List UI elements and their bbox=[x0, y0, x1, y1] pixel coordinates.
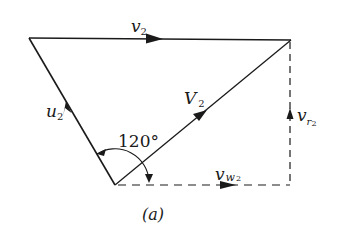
figure-caption: (a) bbox=[142, 205, 164, 224]
v2-arrow-icon bbox=[146, 34, 163, 44]
vector-vr2 bbox=[287, 42, 294, 185]
arc-start-arrow-icon bbox=[97, 149, 106, 156]
vr2-arrow-icon bbox=[287, 108, 294, 119]
vw2-label: vw2 bbox=[215, 164, 241, 184]
angle-label: 120° bbox=[118, 131, 159, 151]
vector-u2 bbox=[29, 38, 115, 185]
vector-vw2 bbox=[118, 181, 290, 189]
angle-arc bbox=[97, 149, 153, 183]
vector-v2 bbox=[29, 34, 291, 44]
velocity-triangle-diagram: v2 u2 V2 vr2 vw2 120° (a) bbox=[0, 0, 341, 244]
vr2-label: vr2 bbox=[297, 105, 316, 128]
u2-label: u2 bbox=[46, 101, 63, 122]
arc-end-arrow-icon bbox=[145, 174, 153, 183]
v2-label: v2 bbox=[131, 16, 147, 37]
V2-label: V2 bbox=[184, 88, 205, 109]
vector-V2 bbox=[115, 40, 291, 185]
